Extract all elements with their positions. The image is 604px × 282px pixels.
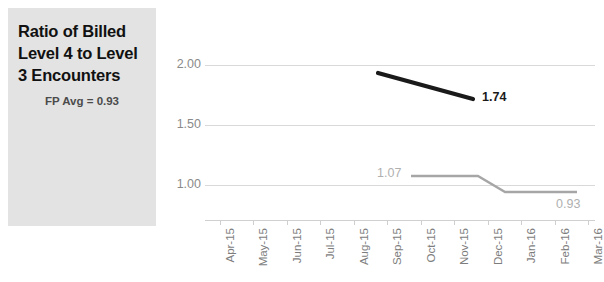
data-label-1-07: 1.07 bbox=[377, 166, 401, 180]
data-label-0-93: 0.93 bbox=[556, 197, 580, 211]
series-line-fp-average bbox=[411, 176, 577, 192]
series-line-practice bbox=[378, 73, 473, 99]
data-label-1-74: 1.74 bbox=[482, 90, 506, 104]
